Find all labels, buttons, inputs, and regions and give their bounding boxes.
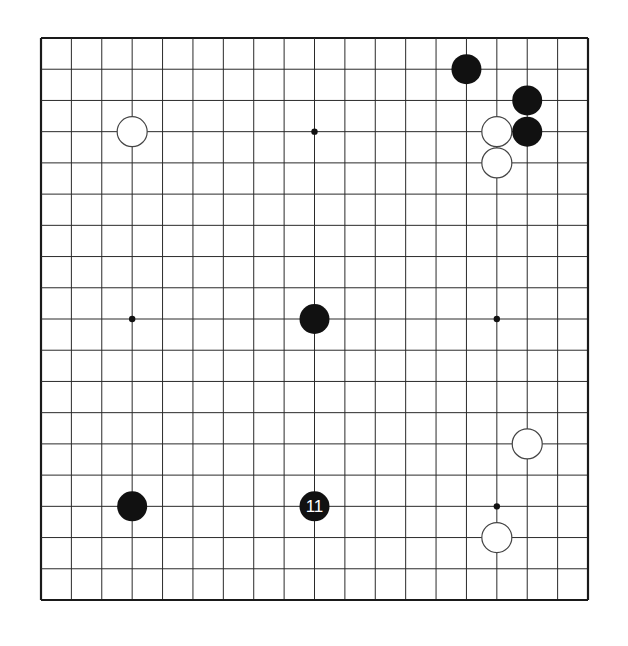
black-stone-disc xyxy=(451,54,481,84)
black-stone[interactable] xyxy=(512,117,542,147)
black-stone[interactable] xyxy=(300,304,330,334)
move-number-label: 11 xyxy=(306,497,324,516)
white-stone-disc xyxy=(482,523,512,553)
white-stone-disc xyxy=(117,117,147,147)
white-stone[interactable] xyxy=(482,148,512,178)
go-board[interactable]: 11 xyxy=(0,0,628,646)
white-stone-disc xyxy=(482,148,512,178)
black-stone[interactable] xyxy=(512,85,542,115)
white-stone[interactable] xyxy=(482,117,512,147)
white-stone-disc xyxy=(512,429,542,459)
white-stone[interactable] xyxy=(117,117,147,147)
white-stone-disc xyxy=(482,117,512,147)
black-stone[interactable] xyxy=(451,54,481,84)
star-point xyxy=(494,316,500,322)
black-stone-disc xyxy=(300,304,330,334)
black-stone[interactable] xyxy=(117,491,147,521)
black-stone[interactable]: 11 xyxy=(300,491,330,521)
star-point xyxy=(311,128,317,134)
black-stone-disc xyxy=(117,491,147,521)
white-stone[interactable] xyxy=(512,429,542,459)
star-point xyxy=(129,316,135,322)
white-stone[interactable] xyxy=(482,523,512,553)
black-stone-disc xyxy=(512,85,542,115)
star-point xyxy=(494,503,500,509)
black-stone-disc xyxy=(512,117,542,147)
stones-layer: 11 xyxy=(117,54,542,552)
